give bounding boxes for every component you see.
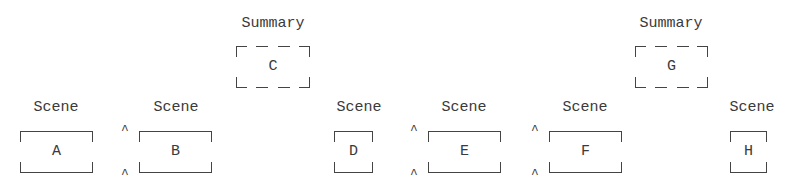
node-g-box: G xyxy=(635,46,708,88)
node-f-label: Scene xyxy=(562,100,607,116)
node-d-id: D xyxy=(349,144,358,160)
node-g-id: G xyxy=(667,59,676,75)
node-c-box: C xyxy=(236,46,310,88)
node-d-label: Scene xyxy=(336,100,381,116)
node-e-label: Scene xyxy=(441,100,486,116)
node-h-id: H xyxy=(744,144,753,160)
node-b-id: B xyxy=(171,144,180,160)
node-h-label: Scene xyxy=(729,100,774,116)
node-h-box: H xyxy=(730,131,767,173)
node-b-label: Scene xyxy=(153,100,198,116)
node-a-id: A xyxy=(52,144,61,160)
caret-icon: ^ xyxy=(531,168,539,181)
caret-icon: ^ xyxy=(410,168,418,181)
node-b-box: B xyxy=(139,131,212,173)
node-e-box: E xyxy=(428,131,501,173)
node-a-label: Scene xyxy=(33,100,78,116)
node-e-id: E xyxy=(460,144,469,160)
caret-icon: ^ xyxy=(531,124,539,137)
caret-icon: ^ xyxy=(410,124,418,137)
node-d-box: D xyxy=(334,131,373,173)
node-f-box: F xyxy=(549,131,622,173)
node-g-label: Summary xyxy=(639,16,702,32)
caret-icon: ^ xyxy=(121,168,129,181)
caret-icon: ^ xyxy=(121,124,129,137)
node-c-id: C xyxy=(268,59,277,75)
node-c-label: Summary xyxy=(241,16,304,32)
node-a-box: A xyxy=(20,131,93,173)
node-f-id: F xyxy=(581,144,590,160)
